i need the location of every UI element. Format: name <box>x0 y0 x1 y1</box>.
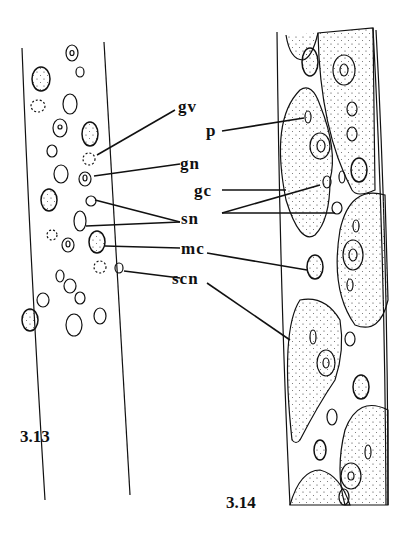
label-gc: gc <box>194 182 212 199</box>
label-mc: mc <box>181 240 205 257</box>
diagram-canvas: gv gn p gc sn mc scn 3.13 3.14 <box>0 0 410 548</box>
label-scn: scn <box>172 270 199 287</box>
label-gn: gn <box>180 155 200 172</box>
figure-label-3-14: 3.14 <box>226 494 256 511</box>
label-gv: gv <box>178 98 197 115</box>
label-sn: sn <box>181 210 199 227</box>
label-p: p <box>206 122 216 139</box>
diagram-drawing <box>0 0 410 548</box>
strand-3-14 <box>277 28 388 505</box>
figure-label-3-13: 3.13 <box>20 428 50 445</box>
